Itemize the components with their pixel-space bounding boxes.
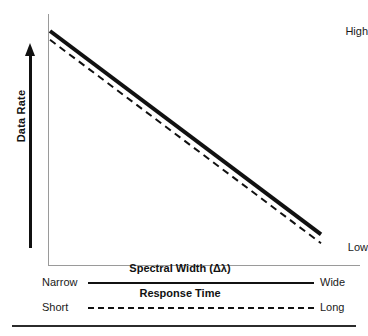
- y-axis-low-label: Low: [324, 241, 368, 253]
- y-axis-title: Data Rate: [15, 71, 27, 161]
- scale-response-time: Response Time Short Long: [0, 297, 368, 319]
- y-axis-high-label: High: [324, 25, 368, 37]
- series-line-response-time: [50, 40, 321, 243]
- arrow-shaft: [29, 53, 32, 248]
- scale-spectral-width-title: Spectral Width (Δλ): [48, 262, 312, 274]
- scale-spectral-width-right-label: Wide: [320, 276, 345, 288]
- scale-response-time-line: [88, 307, 314, 309]
- bottom-divider: [12, 325, 356, 327]
- y-axis-line: [48, 14, 49, 266]
- scale-response-time-title: Response Time: [48, 287, 312, 299]
- scale-spectral-width-line: [88, 282, 314, 284]
- scale-response-time-left-label: Short: [42, 301, 68, 313]
- scale-response-time-right-label: Long: [320, 301, 344, 313]
- series-line-spectral-width: [50, 31, 321, 234]
- figure-container: High Low Data Rate Spectral Width (Δλ) N…: [0, 0, 368, 336]
